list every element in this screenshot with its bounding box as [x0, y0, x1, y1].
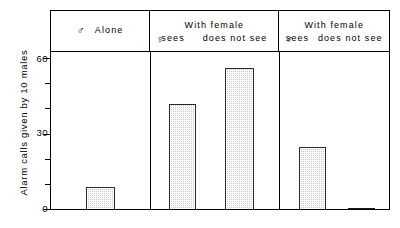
bars-area [50, 52, 390, 210]
y-tick-30 [43, 134, 50, 135]
panel-header-alone: ♂ Alone [51, 11, 150, 51]
panel-header-male-not-sees: does not see [318, 33, 383, 43]
panel-header-male-observer: With female sees does not see ♂ [279, 11, 389, 51]
panel-header-female-title: With female [152, 19, 276, 32]
panel-header-alone-label: Alone [95, 24, 124, 37]
y-axis-ticks [0, 0, 50, 228]
y-tick-60 [43, 58, 50, 59]
female-symbol-icon: ♀ [156, 33, 164, 45]
bar-female-sees [169, 104, 196, 210]
figure: Alarm calls given by 10 males 60 30 0 ♂ … [0, 0, 400, 228]
y-tick-0 [43, 209, 50, 210]
bar-female-does-not-see [225, 68, 254, 210]
panel-divider-1 [150, 52, 151, 210]
x-axis-baseline [51, 209, 389, 210]
panel-header-female-not-sees: does not see [203, 33, 268, 43]
plot-area: ♂ Alone With female sees does not see ♀ … [50, 10, 390, 210]
bar-alone [86, 187, 115, 210]
panel-header-male-title: With female [281, 19, 387, 32]
male-symbol-icon-2: ♂ [285, 33, 293, 45]
male-symbol-icon: ♂ [77, 23, 85, 38]
panel-divider-2 [279, 52, 280, 210]
panel-header-female-sees: sees [161, 33, 184, 43]
bar-male-sees [299, 147, 326, 210]
panel-header-female-observer: With female sees does not see ♀ [150, 11, 279, 51]
panel-header-band: ♂ Alone With female sees does not see ♀ … [50, 10, 390, 52]
